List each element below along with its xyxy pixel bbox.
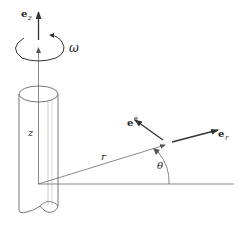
label-theta: θ [157, 160, 163, 171]
er-arrow [172, 130, 218, 142]
label-etheta-sub: θ [134, 115, 138, 122]
rotation-arrow [15, 35, 64, 61]
label-ez: e [21, 8, 27, 19]
theta-arc-arrowhead [153, 148, 160, 155]
label-omega: ω [69, 41, 79, 55]
label-etheta: e [127, 117, 133, 128]
label-er: e [218, 128, 224, 139]
etheta-arrow [135, 120, 163, 140]
label-ez-sub: z [27, 14, 32, 22]
label-r: r [101, 151, 107, 162]
rotation-arrowhead [49, 33, 54, 38]
label-z: z [27, 127, 34, 138]
cylindrical-coordinates-diagram: e z ω z r θ e θ e r [0, 0, 242, 231]
label-er-sub: r [225, 134, 229, 142]
